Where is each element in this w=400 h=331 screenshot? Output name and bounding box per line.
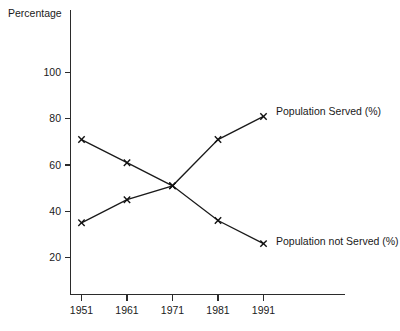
series-line xyxy=(82,140,264,244)
x-tick-label: 1951 xyxy=(70,304,94,316)
y-tick-label: 40 xyxy=(49,205,61,217)
line-chart: Percentage 100 80 60 40 20 1951 1961 197… xyxy=(0,0,400,331)
x-tick-label: 1961 xyxy=(115,304,139,316)
y-tick-label: 80 xyxy=(49,112,61,124)
data-point-marker xyxy=(260,240,266,246)
x-tick-label: 1991 xyxy=(252,304,276,316)
y-tick-label: 100 xyxy=(43,66,61,78)
x-tick-label: 1981 xyxy=(206,304,230,316)
data-point-marker xyxy=(215,217,221,223)
data-point-marker xyxy=(124,196,130,202)
data-point-marker xyxy=(124,159,130,165)
y-axis-title: Percentage xyxy=(8,7,62,19)
y-tick-label: 60 xyxy=(49,159,61,171)
x-tick-label: 1971 xyxy=(161,304,185,316)
x-axis-ticks: 1951 1961 1971 1981 1991 xyxy=(70,295,276,317)
data-point-marker xyxy=(260,113,266,119)
series-line xyxy=(82,116,264,222)
data-point-marker xyxy=(169,183,175,189)
data-point-marker xyxy=(215,136,221,142)
chart-container: Percentage 100 80 60 40 20 1951 1961 197… xyxy=(0,0,400,331)
series-label-population-not-served: Population not Served (%) xyxy=(276,235,399,247)
data-point-marker xyxy=(78,220,84,226)
y-axis-ticks: 100 80 60 40 20 xyxy=(43,66,70,263)
y-tick-label: 20 xyxy=(49,251,61,263)
series-label-population-served: Population Served (%) xyxy=(276,105,381,117)
data-point-marker xyxy=(78,136,84,142)
series-layer xyxy=(78,113,266,247)
